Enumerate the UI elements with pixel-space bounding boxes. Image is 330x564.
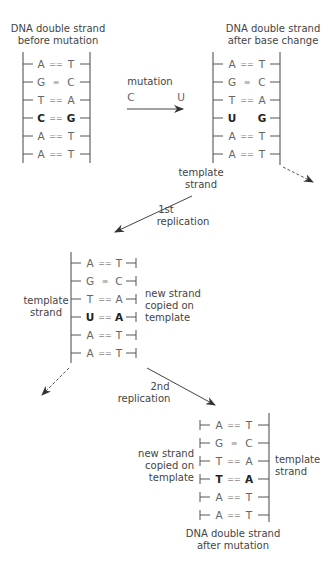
dashed-arrow-icon (283, 167, 313, 182)
svg-text:T: T (245, 509, 253, 521)
svg-text:T: T (67, 58, 75, 70)
svg-text:T: T (258, 58, 266, 70)
svg-text:A: A (86, 347, 94, 359)
new-strand-label-2: copied on (145, 300, 194, 311)
svg-text:U: U (86, 311, 95, 323)
new-strand-label-1: new strand (138, 448, 194, 459)
svg-text:G: G (86, 275, 94, 287)
panel-before-title-2: before mutation (18, 35, 99, 46)
svg-text:U: U (228, 112, 237, 124)
svg-text:G: G (67, 112, 76, 124)
svg-text:A: A (86, 257, 94, 269)
svg-text:A: A (37, 130, 45, 142)
svg-text:A: A (215, 419, 223, 431)
panel-after-mutation-title-1: DNA double strand (186, 528, 281, 539)
svg-text:==: == (49, 114, 62, 123)
base-pair-row: A == T (213, 130, 280, 142)
svg-text:A: A (215, 509, 223, 521)
svg-text:==: == (98, 295, 111, 304)
svg-text:T: T (215, 455, 223, 467)
dashed-arrow-icon (42, 368, 69, 395)
svg-text:==: == (240, 150, 253, 159)
svg-text:T: T (86, 293, 94, 305)
svg-text:T: T (245, 491, 253, 503)
base-pair-row-mutated: U G (213, 112, 280, 124)
svg-text:==: == (227, 457, 240, 466)
svg-text:A: A (37, 58, 45, 70)
base-pairs: A == T G ≡ C T == A C == G (23, 58, 90, 160)
svg-text:==: == (240, 96, 253, 105)
mutation-from: C (127, 91, 134, 103)
svg-text:T: T (115, 329, 123, 341)
svg-text:==: == (98, 313, 111, 322)
svg-text:A: A (67, 94, 75, 106)
svg-text:T: T (258, 148, 266, 160)
template-label-1: template (23, 295, 68, 306)
base-pairs: A == T G ≡ C T == A T == (200, 419, 269, 521)
base-pair-row: A == T (23, 58, 90, 70)
template-label-1: template (275, 454, 320, 465)
svg-text:A: A (215, 491, 223, 503)
svg-text:G: G (258, 112, 267, 124)
base-pairs: A == T G ≡ C T == A U == (71, 257, 136, 359)
svg-text:T: T (115, 257, 123, 269)
svg-text:G: G (215, 437, 223, 449)
new-strand-label-3: template (149, 472, 194, 483)
svg-text:==: == (49, 96, 62, 105)
base-pair-row: T == A (23, 94, 90, 106)
base-pair-row: A == T (213, 148, 280, 160)
svg-text:==: == (98, 259, 111, 268)
svg-text:A: A (228, 130, 236, 142)
svg-text:G: G (37, 76, 45, 88)
template-label-2: strand (275, 466, 307, 477)
dna-mutation-diagram: DNA double strand before mutation A == T… (0, 0, 330, 564)
base-pair-row: A == T (23, 130, 90, 142)
svg-text:==: == (227, 475, 240, 484)
base-pair-row: G ≡ C (200, 437, 269, 449)
svg-text:T: T (37, 94, 45, 106)
replication2-label-2: replication (118, 393, 171, 404)
svg-text:T: T (228, 94, 236, 106)
svg-text:==: == (98, 349, 111, 358)
svg-text:C: C (245, 437, 252, 449)
new-strand-label-1: new strand (145, 288, 201, 299)
svg-text:==: == (240, 60, 253, 69)
svg-text:G: G (228, 76, 236, 88)
base-pair-row: A == T (200, 509, 269, 521)
svg-text:≡: ≡ (53, 78, 60, 87)
svg-text:C: C (115, 275, 122, 287)
base-pair-row: A == T (71, 347, 136, 359)
svg-text:A: A (228, 58, 236, 70)
svg-text:T: T (115, 347, 123, 359)
template-strand-label-2: strand (185, 179, 217, 190)
svg-text:C: C (37, 112, 45, 124)
base-pair-row: G ≡ C (213, 76, 280, 88)
base-pair-row: T == A (213, 94, 280, 106)
first-replication-arrow-group: 1st replication (115, 196, 209, 232)
base-pair-row-mutated: C == G (23, 112, 90, 124)
panel-before-title-1: DNA double strand (11, 23, 106, 34)
template-strand-label-1: template (178, 167, 223, 178)
svg-text:==: == (227, 511, 240, 520)
svg-text:T: T (67, 148, 75, 160)
svg-text:≡: ≡ (244, 78, 251, 87)
base-pair-row: A == T (213, 58, 280, 70)
template-label-2: strand (30, 307, 62, 318)
svg-text:C: C (67, 76, 74, 88)
svg-text:T: T (258, 130, 266, 142)
svg-text:==: == (240, 132, 253, 141)
panel-after-mutation-title-2: after mutation (197, 540, 269, 551)
svg-text:==: == (227, 421, 240, 430)
svg-text:A: A (228, 148, 236, 160)
panel-after-base-change: DNA double strand after base change A ==… (178, 23, 320, 190)
panel-after-change-title-2: after base change (228, 35, 319, 46)
svg-text:==: == (49, 132, 62, 141)
svg-text:C: C (258, 76, 265, 88)
base-pair-row: A == T (200, 419, 269, 431)
mutation-label: mutation (127, 76, 172, 87)
base-pair-row-mutated: T == A (200, 473, 269, 485)
svg-text:A: A (258, 94, 266, 106)
svg-text:==: == (49, 150, 62, 159)
svg-text:==: == (49, 60, 62, 69)
svg-text:≡: ≡ (231, 439, 238, 448)
